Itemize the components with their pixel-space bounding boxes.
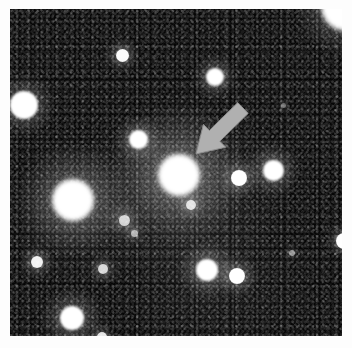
star-core (52, 179, 94, 221)
star-core (263, 160, 284, 181)
star-core (336, 233, 342, 249)
star-core (229, 268, 245, 284)
film-grain-layer-fine (10, 9, 342, 336)
star-star-upper-left-bright (10, 91, 38, 119)
star-halo (105, 201, 142, 238)
star-halo (276, 98, 291, 113)
star-core (186, 200, 196, 210)
star-halo (18, 145, 127, 254)
star-star-left-large (52, 179, 94, 221)
star-halo (10, 74, 55, 136)
star-core (158, 154, 200, 196)
star-halo (176, 190, 206, 220)
star-core (206, 68, 224, 86)
star-halo (105, 38, 139, 72)
star-halo (122, 221, 146, 245)
star-halo (216, 255, 258, 297)
star-star-mid-left-faint (119, 215, 130, 226)
star-halo (326, 223, 342, 258)
star-halo (193, 55, 236, 98)
star-halo (218, 157, 260, 199)
star-star-mid-left-tiny (131, 230, 138, 237)
star-star-right-inner (231, 170, 247, 186)
star-core (231, 170, 247, 186)
star-star-lower-center (196, 259, 218, 281)
star-halo (178, 241, 235, 298)
star-halo (246, 143, 301, 198)
star-star-left-of-center (129, 130, 148, 149)
sky-background-glow (10, 9, 342, 336)
star-core (97, 332, 107, 336)
star-core (116, 49, 129, 62)
star-core (10, 91, 38, 119)
star-core (60, 306, 84, 330)
star-core (196, 259, 218, 281)
arrow-marker-shape (196, 103, 248, 154)
star-star-lower-mid-faint (98, 264, 108, 274)
star-star-upper-mid-right (206, 68, 224, 86)
star-corner-blob-top-right (321, 9, 342, 31)
star-star-right-faint-high (289, 250, 295, 256)
star-star-bottom-left-bright (60, 306, 84, 330)
sky-image-plate (10, 9, 342, 336)
film-grain-layer-coarse (10, 9, 342, 336)
star-core (281, 103, 286, 108)
star-star-below-center-faint (186, 200, 196, 210)
star-core (289, 250, 295, 256)
star-halo (20, 245, 54, 279)
star-star-lower-left-small (31, 256, 43, 268)
star-halo (283, 244, 301, 262)
star-star-right-outer (263, 160, 284, 181)
star-core (31, 256, 43, 268)
star-halo (41, 287, 103, 336)
star-core (129, 130, 148, 149)
star-star-lower-right-small (229, 268, 245, 284)
star-halo (296, 9, 342, 56)
star-star-right-edge-clipped (336, 233, 342, 249)
arrow-marker-icon (182, 94, 257, 168)
star-halo (112, 108, 246, 242)
star-core (321, 9, 342, 31)
star-core (98, 264, 108, 274)
star-star-upper-mid-small (116, 49, 129, 62)
star-halo (115, 116, 161, 162)
star-core (119, 215, 130, 226)
star-star-bottom-edge-clipped (97, 332, 107, 336)
film-grain-layer-streak (10, 9, 342, 336)
screenshot-canvas (0, 0, 352, 348)
star-central-bright-object (158, 154, 200, 196)
arrow-marker (182, 94, 257, 168)
star-star-upper-right-faint (281, 103, 286, 108)
star-core (131, 230, 138, 237)
star-halo (89, 324, 115, 336)
star-halo (88, 254, 118, 284)
